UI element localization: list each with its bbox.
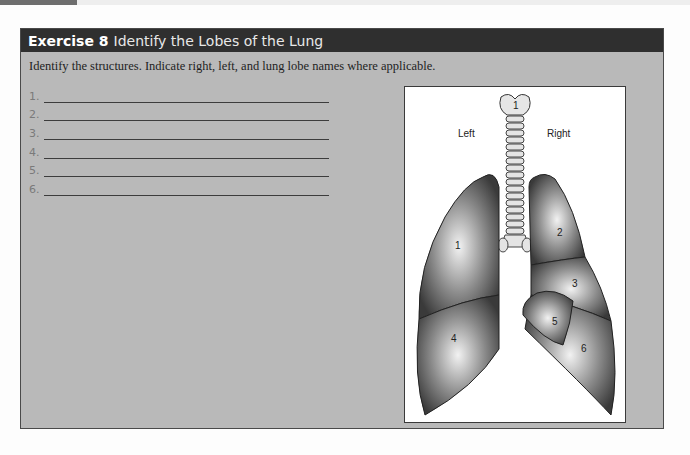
answer-row-6: 6. [29, 177, 329, 196]
answer-list: 1. 2. 3. 4. 5. 6. [29, 84, 329, 196]
answer-blank-1[interactable] [44, 89, 329, 103]
exercise-header: Exercise 8 Identify the Lobes of the Lun… [21, 29, 663, 52]
answer-blank-6[interactable] [44, 182, 329, 196]
top-tab [0, 0, 77, 5]
answer-number: 3. [29, 127, 44, 140]
lobe-label-5: 5 [552, 316, 558, 327]
left-side-label: Left [458, 128, 475, 139]
lobe-label-4: 4 [451, 333, 457, 344]
answer-number: 2. [29, 108, 44, 121]
right-side-label: Right [547, 128, 571, 139]
answer-blank-5[interactable] [44, 163, 329, 177]
trachea-label: 1 [513, 100, 519, 111]
lobe-label-3: 3 [572, 278, 578, 289]
instructions: Identify the structures. Indicate right,… [29, 59, 435, 74]
lobe-label-6: 6 [581, 343, 587, 354]
answer-blank-2[interactable] [44, 107, 329, 121]
exercise-box: Exercise 8 Identify the Lobes of the Lun… [20, 28, 664, 429]
lobe-label-1: 1 [455, 240, 461, 251]
exercise-title: Identify the Lobes of the Lung [114, 33, 324, 49]
exercise-number: Exercise 8 [28, 33, 109, 49]
answer-row-4: 4. [29, 140, 329, 159]
trachea [498, 94, 532, 252]
answer-row-3: 3. [29, 121, 329, 140]
answer-number: 5. [29, 164, 44, 177]
answer-number: 6. [29, 183, 44, 196]
answer-number: 1. [29, 90, 44, 103]
answer-number: 4. [29, 146, 44, 159]
answer-row-2: 2. [29, 103, 329, 122]
lobe-2 [529, 174, 585, 265]
lung-diagram: 1 Left Right 1 2 3 4 5 6 [405, 87, 625, 422]
answer-row-5: 5. [29, 159, 329, 178]
lobe-label-2: 2 [557, 227, 563, 238]
answer-blank-3[interactable] [44, 126, 329, 140]
top-strip [0, 0, 690, 5]
answer-row-1: 1. [29, 84, 329, 103]
lung-figure: 1 Left Right 1 2 3 4 5 6 [404, 86, 626, 423]
answer-blank-4[interactable] [44, 145, 329, 159]
lobe-5 [523, 291, 573, 345]
